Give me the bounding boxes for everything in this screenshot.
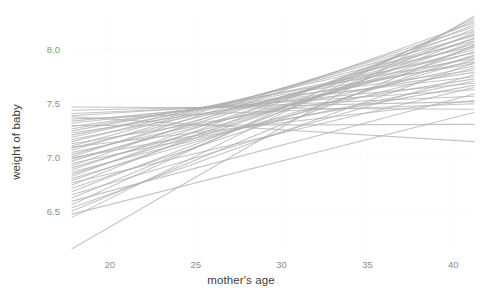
- posterior-regression-line: [72, 124, 474, 125]
- y-tick-label: 8.0: [34, 43, 60, 54]
- posterior-regression-line: [72, 27, 474, 157]
- posterior-line-group: [72, 16, 474, 249]
- x-axis-title: mother's age: [0, 274, 482, 286]
- spaghetti-plot-figure: weight of baby mother's age 2025303540 6…: [0, 0, 482, 302]
- x-tick-label: 40: [448, 259, 459, 270]
- x-tick-label: 20: [104, 259, 115, 270]
- x-tick-label: 35: [362, 259, 373, 270]
- y-tick-label: 7.5: [34, 97, 60, 108]
- regression-lines-plot: [0, 0, 482, 302]
- x-tick-label: 25: [190, 259, 201, 270]
- y-axis-title: weight of baby: [10, 82, 22, 202]
- x-tick-label: 30: [276, 259, 287, 270]
- y-tick-label: 6.5: [34, 205, 60, 216]
- y-tick-label: 7.0: [34, 151, 60, 162]
